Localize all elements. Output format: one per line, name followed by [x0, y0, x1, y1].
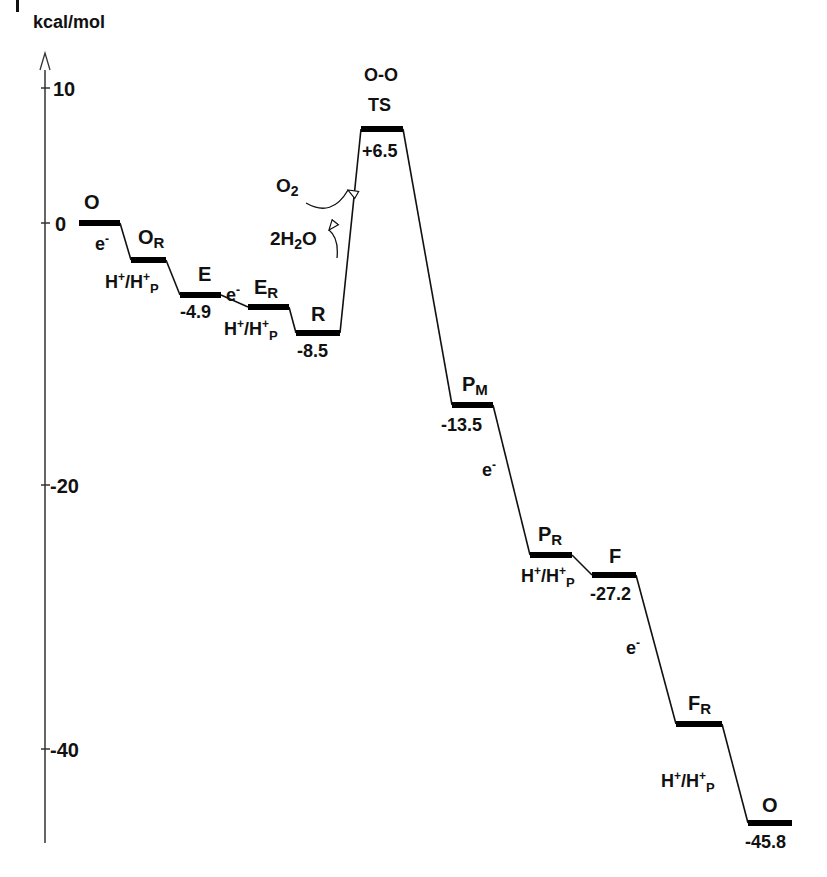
- state-label-F: F: [609, 545, 621, 567]
- value-R: -8.5: [297, 341, 328, 361]
- state-label-TS-top: O-O: [364, 65, 398, 85]
- proton-P: P: [706, 780, 715, 795]
- electron-e: e: [226, 285, 236, 305]
- y-axis-unit: kcal/mol: [33, 12, 105, 32]
- state-label-OR: OR: [138, 226, 165, 251]
- proton-P: P: [150, 281, 159, 296]
- y-axis-arrow-icon: [40, 53, 50, 70]
- state-label-ER: ER: [254, 276, 278, 301]
- proton-H: H: [224, 319, 237, 339]
- level-O-final: [748, 820, 792, 826]
- y-tick-label-0: 0: [55, 213, 66, 235]
- connector-TS-PM: [403, 129, 452, 405]
- step-electron-1: e-: [95, 232, 109, 254]
- level-TS: [361, 126, 403, 132]
- proton-slash-H: /H: [244, 319, 262, 339]
- value-E: -4.9: [180, 302, 211, 322]
- step-electron-3: e-: [482, 458, 496, 480]
- energy-diagram: kcal/mol 10 0 -20 -40 O: [0, 0, 827, 877]
- h2o-sub: 2: [294, 236, 302, 252]
- step-proton-4: H+/H+P: [661, 769, 715, 795]
- proton-P: P: [269, 328, 278, 343]
- h2o-arrow-icon: [329, 230, 337, 258]
- connector-PR-F: [572, 555, 592, 575]
- proton-plus: +: [237, 317, 244, 331]
- proton-plus: +: [674, 769, 681, 783]
- connector-F-FR: [636, 575, 676, 724]
- connector-ER-R: [289, 307, 296, 333]
- electron-e: e: [626, 638, 636, 658]
- state-label-PM-sub: M: [475, 381, 488, 398]
- level-ER: [248, 304, 289, 310]
- level-OR: [131, 257, 166, 263]
- value-O-final: -45.8: [745, 832, 786, 852]
- o2-arrow-icon: [306, 190, 348, 208]
- state-labels: O OR E ER R O-O TS PM PR F FR O: [84, 65, 778, 816]
- state-label-FR-main: F: [688, 692, 700, 714]
- y-tick-label-minus40: -40: [50, 739, 79, 761]
- proton-P: P: [566, 575, 575, 590]
- value-F: -27.2: [590, 584, 631, 604]
- state-label-R: R: [311, 303, 326, 325]
- level-F: [592, 572, 636, 578]
- state-label-PM-main: P: [462, 373, 475, 395]
- state-label-OR-main: O: [138, 226, 154, 248]
- state-label-ER-sub: R: [267, 284, 278, 301]
- state-label-FR-sub: R: [700, 700, 711, 717]
- levels: [79, 126, 792, 826]
- y-axis: kcal/mol 10 0 -20 -40: [33, 12, 105, 843]
- proton-plus-2: +: [559, 564, 566, 578]
- state-label-PR-main: P: [538, 523, 551, 545]
- level-R: [296, 330, 340, 336]
- substrate-annotations: O2 2H2O: [270, 175, 348, 258]
- o2-sub: 2: [291, 183, 299, 199]
- electron-charge: -: [236, 283, 240, 297]
- proton-plus-2: +: [143, 270, 150, 284]
- state-label-PR: PR: [538, 523, 562, 548]
- state-label-TS: TS: [368, 95, 391, 115]
- level-FR: [676, 721, 722, 727]
- level-O: [79, 220, 120, 226]
- electron-e: e: [95, 234, 105, 254]
- step-proton-2: H+/H+P: [224, 317, 278, 343]
- o2-main: O: [276, 175, 291, 196]
- proton-H: H: [105, 272, 118, 292]
- level-E: [180, 292, 221, 298]
- state-label-ER-main: E: [254, 276, 267, 298]
- state-label-PM: PM: [462, 373, 488, 398]
- proton-plus-2: +: [262, 317, 269, 331]
- y-tick-label-minus20: -20: [50, 475, 79, 497]
- proton-plus-2: +: [699, 769, 706, 783]
- connector-PM-PR: [493, 405, 530, 555]
- proton-plus: +: [118, 270, 125, 284]
- proton-slash-H: /H: [541, 566, 559, 586]
- proton-H: H: [521, 566, 534, 586]
- y-tick-label-10: 10: [53, 78, 75, 100]
- proton-slash-H: /H: [125, 272, 143, 292]
- electron-charge: -: [492, 458, 496, 472]
- o2-label: O2: [276, 175, 299, 199]
- state-label-O-final: O: [762, 794, 778, 816]
- connector-FR-O: [722, 724, 748, 823]
- connector-O-OR: [120, 223, 131, 260]
- h2o-post: O: [302, 228, 317, 249]
- step-electron-4: e-: [626, 636, 640, 658]
- state-label-E: E: [198, 263, 211, 285]
- proton-slash-H: /H: [681, 771, 699, 791]
- level-PR: [530, 552, 572, 558]
- state-label-O: O: [84, 191, 100, 213]
- electron-charge: -: [636, 636, 640, 650]
- state-label-PR-sub: R: [551, 531, 562, 548]
- state-label-FR: FR: [688, 692, 711, 717]
- electron-charge: -: [105, 232, 109, 246]
- connector-R-TS: [340, 129, 361, 333]
- value-TS: +6.5: [362, 141, 398, 161]
- step-proton-3: H+/H+P: [521, 564, 575, 590]
- value-PM: -13.5: [441, 415, 482, 435]
- level-PM: [452, 402, 493, 408]
- h2o-label: 2H2O: [270, 228, 317, 252]
- h2o-pre: 2H: [270, 228, 294, 249]
- proton-plus: +: [534, 564, 541, 578]
- step-proton-1: H+/H+P: [105, 270, 159, 296]
- connectors: [120, 129, 748, 823]
